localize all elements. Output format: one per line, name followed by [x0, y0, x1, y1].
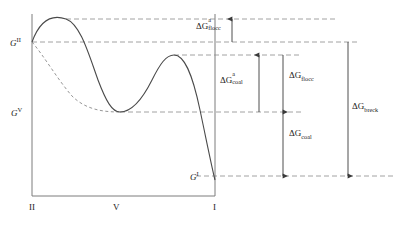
- diagram-graphics: [0, 0, 403, 229]
- x-tick-label-II: II: [29, 203, 35, 212]
- x-tick-label-V: V: [113, 203, 120, 212]
- free-energy-diagram: GII GV GI II V I ΔGafloccflocc ΔGacoalco…: [0, 0, 403, 229]
- label-dG-breck: ΔGbreck: [352, 102, 378, 113]
- label-dG-a-coal: ΔGacoalcoal: [220, 76, 243, 85]
- y-label-g-two: GII: [10, 37, 21, 48]
- label-dG-a-flocc: ΔGafloccflocc: [196, 22, 221, 31]
- label-dG-flocc: ΔGflocc: [289, 71, 314, 82]
- alternative-free-energy-curve: [32, 42, 120, 112]
- y-label-g-one: GI: [190, 171, 199, 182]
- y-label-g-five: GV: [11, 107, 22, 118]
- label-dG-coal: ΔGcoal: [289, 129, 312, 140]
- x-tick-label-I: I: [213, 203, 216, 212]
